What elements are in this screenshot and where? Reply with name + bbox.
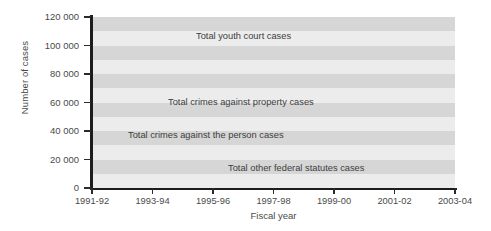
series-label-property-cases: Total crimes against property cases <box>168 97 314 107</box>
background-band <box>92 60 455 74</box>
background-band <box>92 46 455 60</box>
y-axis-tick-label: 80 000 <box>9 68 79 79</box>
x-axis-tick <box>273 188 274 194</box>
background-band <box>92 145 455 159</box>
series-label-person-cases: Total crimes against the person cases <box>128 130 284 140</box>
series-label-youth-court-cases: Total youth court cases <box>196 31 291 41</box>
x-axis-tick <box>454 188 455 194</box>
y-axis-tick <box>84 159 91 160</box>
y-axis-tick-label: 100 000 <box>9 40 79 51</box>
x-axis-tick <box>91 188 92 194</box>
background-band <box>92 117 455 131</box>
y-axis-tick-label: 40 000 <box>9 125 79 136</box>
y-axis-tick <box>84 73 91 74</box>
y-axis-tick <box>84 45 91 46</box>
background-band <box>92 74 455 88</box>
x-axis-tick <box>212 188 213 194</box>
y-axis-tick <box>84 102 91 103</box>
x-axis-tick <box>152 188 153 194</box>
background-band <box>92 17 455 31</box>
y-axis-tick-label: 0 <box>9 182 79 193</box>
y-axis-tick-label: 120 000 <box>9 11 79 22</box>
y-axis-tick-label: 20 000 <box>9 154 79 165</box>
background-band <box>92 174 455 188</box>
x-axis-tick <box>394 188 395 194</box>
y-axis-tick <box>84 130 91 131</box>
y-axis-tick <box>84 16 91 17</box>
line-chart: Number of cases 020 00040 00060 00080 00… <box>0 0 491 231</box>
x-axis-title: Fiscal year <box>92 210 455 221</box>
x-axis-tick-label: 2003-04 <box>418 196 491 206</box>
x-axis-tick <box>333 188 334 194</box>
y-axis-tick-label: 60 000 <box>9 97 79 108</box>
series-label-federal-statutes-cases: Total other federal statutes cases <box>228 163 364 173</box>
y-axis-tick <box>84 187 91 188</box>
